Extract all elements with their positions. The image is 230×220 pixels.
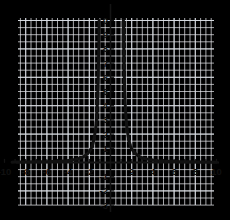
x-tick-label: -4: [64, 166, 73, 177]
function-graph: -10-8-6-4-2246810 0987654321-1-2-3: [0, 0, 230, 220]
y-tick-label: 9: [103, 29, 108, 40]
y-tick-label: -1: [100, 171, 109, 182]
x-tick-label: -6: [43, 166, 51, 177]
y-tick-label: 4: [103, 100, 109, 111]
y-tick-label: -2: [100, 185, 108, 196]
x-tick-label: 2: [129, 166, 134, 177]
x-tick-label: 6: [171, 166, 176, 177]
x-tick-label: -8: [21, 166, 29, 177]
y-tick-label: -3: [100, 200, 108, 211]
y-tick-label: 8: [103, 43, 108, 54]
y-tick-label: 5: [103, 86, 109, 97]
x-tick-label: -2: [85, 166, 93, 177]
y-tick-label: 1: [103, 143, 109, 154]
y-tick-label: 2: [103, 129, 108, 140]
x-tick-label: -10: [0, 166, 11, 177]
x-tick-label: 4: [150, 166, 156, 177]
y-tick-label: 0: [103, 15, 108, 26]
y-tick-label: 6: [103, 72, 108, 83]
x-tick-label: 8: [193, 166, 198, 177]
chart-page: -10-8-6-4-2246810 0987654321-1-2-3: [0, 0, 230, 220]
x-tick-label: 10: [211, 166, 222, 177]
y-tick-label: 7: [103, 58, 108, 69]
y-tick-label: 3: [103, 114, 108, 125]
